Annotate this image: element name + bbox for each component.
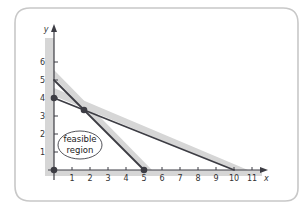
y-axis-label: y — [43, 25, 49, 34]
x-tick-label: 7 — [177, 174, 182, 183]
vertex-5-0 — [141, 167, 148, 174]
y-tick-label: 6 — [40, 58, 45, 67]
x-tick-label: 3 — [105, 174, 110, 183]
y-tick-label: 1 — [40, 148, 45, 157]
x-tick-label: 1 — [69, 174, 74, 183]
y-tick-label: 3 — [40, 112, 45, 121]
vertex-0-4 — [51, 95, 58, 102]
graph-canvas: 1 2 3 4 5 6 7 8 9 10 11 x 1 2 3 4 5 6 y … — [0, 0, 308, 208]
x-axis-label: x — [263, 174, 269, 183]
feasible-region-label: feasible region — [58, 131, 102, 159]
vertex-intersection — [81, 107, 88, 114]
x-tick-label: 11 — [247, 174, 257, 183]
region-label-line1: feasible — [63, 134, 96, 144]
vertex-origin — [51, 167, 58, 174]
x-tick-label: 10 — [229, 174, 239, 183]
x-tick-label: 8 — [195, 174, 200, 183]
y-tick-label: 5 — [40, 76, 45, 85]
y-tick-label: 2 — [40, 130, 45, 139]
x-tick-label: 2 — [87, 174, 92, 183]
x-tick-label: 6 — [159, 174, 164, 183]
y-tick-label: 4 — [40, 94, 45, 103]
x-tick-label: 5 — [141, 174, 146, 183]
region-label-line2: region — [67, 145, 94, 155]
x-tick-label: 4 — [123, 174, 128, 183]
x-tick-label: 9 — [213, 174, 218, 183]
